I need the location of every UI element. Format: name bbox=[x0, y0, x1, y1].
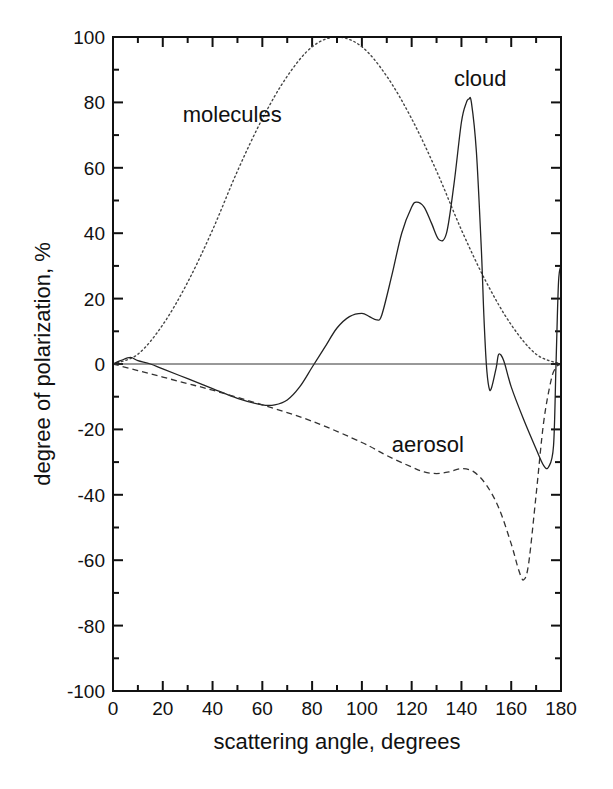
y-tick-label: -100 bbox=[67, 681, 105, 702]
annotation-cloud: cloud bbox=[454, 66, 507, 91]
x-tick-label: 0 bbox=[108, 698, 119, 719]
series-layer bbox=[113, 37, 561, 580]
y-tick-label: -40 bbox=[78, 485, 105, 506]
y-tick-labels: -100-80-60-40-20020406080100 bbox=[67, 27, 105, 702]
y-tick-label: 100 bbox=[73, 27, 105, 48]
x-tick-label: 140 bbox=[446, 698, 478, 719]
x-tick-label: 100 bbox=[346, 698, 378, 719]
polarization-chart: 020406080100120140160180 -100-80-60-40-2… bbox=[0, 0, 613, 789]
annotation-molecules: molecules bbox=[183, 102, 282, 127]
y-tick-label: 40 bbox=[84, 223, 105, 244]
x-tick-label: 80 bbox=[302, 698, 323, 719]
x-axis-title: scattering angle, degrees bbox=[213, 729, 460, 754]
y-tick-label: 80 bbox=[84, 92, 105, 113]
y-axis-title: degree of polarization, % bbox=[30, 242, 55, 485]
series-aerosol bbox=[113, 364, 561, 580]
x-tick-label: 60 bbox=[252, 698, 273, 719]
x-tick-label: 40 bbox=[202, 698, 223, 719]
x-tick-labels: 020406080100120140160180 bbox=[108, 698, 577, 719]
y-tick-label: 60 bbox=[84, 158, 105, 179]
y-tick-label: -60 bbox=[78, 550, 105, 571]
x-tick-label: 180 bbox=[545, 698, 577, 719]
y-tick-label: 0 bbox=[94, 354, 105, 375]
series-cloud bbox=[113, 97, 561, 468]
y-tick-label: -20 bbox=[78, 419, 105, 440]
y-tick-label: -80 bbox=[78, 616, 105, 637]
y-tick-label: 20 bbox=[84, 289, 105, 310]
x-tick-label: 160 bbox=[495, 698, 527, 719]
annotation-aerosol: aerosol bbox=[392, 432, 464, 457]
x-tick-label: 20 bbox=[152, 698, 173, 719]
x-tick-label: 120 bbox=[396, 698, 428, 719]
